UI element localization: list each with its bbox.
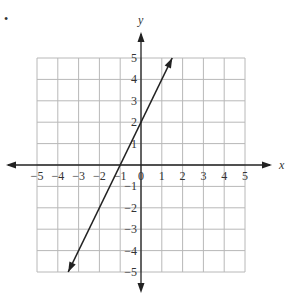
svg-text:−2: −2 [124,201,137,215]
svg-text:1: 1 [159,169,165,183]
svg-text:0: 0 [138,169,144,183]
svg-text:3: 3 [131,94,137,108]
svg-text:1: 1 [131,137,137,151]
bullet: • [4,12,8,27]
svg-text:−3: −3 [72,169,85,183]
svg-text:2: 2 [131,115,137,129]
svg-text:4: 4 [221,169,227,183]
svg-text:5: 5 [131,51,137,65]
svg-text:−5: −5 [31,169,44,183]
svg-text:x: x [278,158,285,172]
svg-text:4: 4 [131,72,137,86]
svg-text:−4: −4 [51,169,64,183]
svg-text:−5: −5 [124,265,137,279]
svg-text:−3: −3 [124,222,137,236]
svg-text:−4: −4 [124,244,137,258]
svg-text:−1: −1 [124,179,137,193]
coordinate-plane: xy −5−4−3−2−101234554321−1−2−3−4−5 [0,0,286,301]
svg-text:−2: −2 [93,169,106,183]
svg-text:2: 2 [180,169,186,183]
svg-text:5: 5 [242,169,248,183]
svg-text:3: 3 [200,169,206,183]
svg-text:y: y [137,13,144,27]
